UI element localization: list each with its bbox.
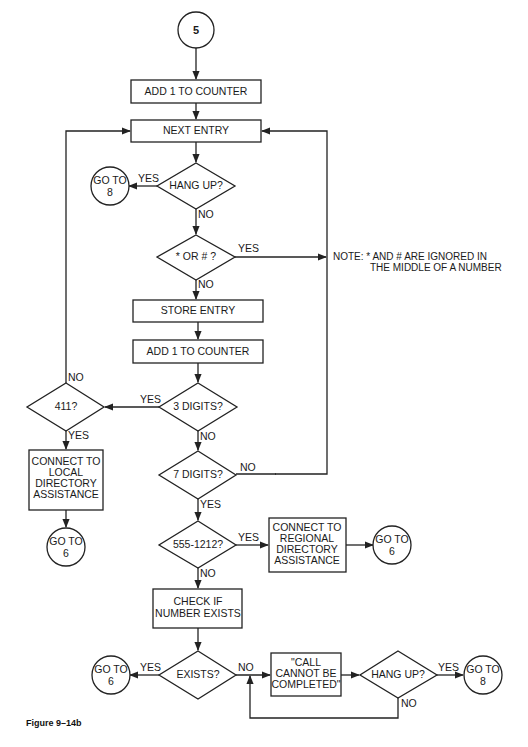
goto-8-connector-a: GO TO 8 — [91, 167, 129, 205]
svg-text:* OR # ?: * OR # ? — [176, 250, 216, 262]
svg-text:ADD 1 TO COUNTER: ADD 1 TO COUNTER — [145, 85, 248, 97]
yes-label: YES — [68, 429, 89, 441]
svg-text:NUMBER EXISTS: NUMBER EXISTS — [155, 607, 241, 619]
process-next-entry: NEXT ENTRY — [131, 120, 261, 142]
yes-label: YES — [140, 393, 161, 405]
svg-text:THE MIDDLE OF A NUMBER: THE MIDDLE OF A NUMBER — [370, 262, 502, 273]
yes-label: YES — [138, 172, 159, 184]
svg-text:411?: 411? — [55, 400, 78, 412]
svg-text:EXISTS?: EXISTS? — [176, 668, 219, 680]
svg-text:5: 5 — [193, 24, 199, 36]
svg-text:ASSISTANCE: ASSISTANCE — [274, 554, 340, 566]
decision-3-digits: 3 DIGITS? — [159, 383, 237, 431]
no-label: NO — [401, 697, 417, 709]
decision-7-digits: 7 DIGITS? — [159, 451, 236, 499]
svg-text:CHECK IF: CHECK IF — [173, 595, 222, 607]
figure-caption: Figure 9–14b — [26, 718, 82, 728]
yes-label: YES — [238, 242, 259, 254]
svg-text:6: 6 — [389, 545, 395, 557]
svg-text:STORE ENTRY: STORE ENTRY — [161, 304, 235, 316]
no-label: NO — [198, 208, 214, 220]
no-label: NO — [198, 278, 214, 290]
svg-text:GO TO: GO TO — [49, 535, 82, 547]
yes-label: YES — [438, 661, 459, 673]
decision-411: 411? — [27, 383, 104, 431]
decision-hang-up-2: HANG UP? — [360, 651, 437, 698]
svg-text:GO TO: GO TO — [375, 533, 408, 545]
svg-text:ASSISTANCE: ASSISTANCE — [33, 488, 99, 500]
svg-text:NEXT ENTRY: NEXT ENTRY — [163, 124, 229, 136]
decision-hang-up-1: HANG UP? — [157, 163, 235, 209]
goto-8-connector-b: GO TO 8 — [464, 656, 502, 694]
svg-text:GO TO: GO TO — [93, 174, 126, 186]
no-label: NO — [68, 371, 84, 383]
svg-text:3 DIGITS?: 3 DIGITS? — [173, 400, 223, 412]
no-label: NO — [200, 567, 216, 579]
decision-star-or-hash: * OR # ? — [157, 235, 235, 280]
yes-label: YES — [140, 661, 161, 673]
start-connector-5: 5 — [178, 12, 214, 48]
decision-exists: EXISTS? — [159, 651, 236, 699]
svg-text:ADD 1 TO COUNTER: ADD 1 TO COUNTER — [147, 345, 250, 357]
decision-555-1212: 555-1212? — [159, 521, 236, 568]
svg-text:HANG UP?: HANG UP? — [169, 179, 223, 191]
process-check-exists: CHECK IF NUMBER EXISTS — [153, 589, 242, 628]
feedback-line-left — [66, 131, 130, 383]
svg-text:GO TO: GO TO — [466, 663, 499, 675]
goto-6-connector-a: GO TO 6 — [47, 528, 85, 566]
svg-text:6: 6 — [63, 547, 69, 559]
process-add-counter-2: ADD 1 TO COUNTER — [133, 340, 263, 363]
svg-text:555-1212?: 555-1212? — [173, 538, 223, 550]
svg-text:7 DIGITS?: 7 DIGITS? — [173, 468, 223, 480]
flowchart: 5 ADD 1 TO COUNTER NEXT ENTRY HANG UP? Y… — [0, 0, 528, 747]
feedback-line-right — [262, 131, 327, 474]
no-label: NO — [240, 461, 256, 473]
process-add-counter-1: ADD 1 TO COUNTER — [131, 80, 261, 103]
goto-6-connector-c: GO TO 6 — [92, 656, 130, 694]
svg-text:8: 8 — [480, 675, 486, 687]
process-connect-local: CONNECT TO LOCAL DIRECTORY ASSISTANCE — [29, 450, 103, 510]
svg-text:6: 6 — [108, 675, 114, 687]
process-store-entry: STORE ENTRY — [133, 300, 263, 322]
svg-text:NOTE: * AND # ARE IGNORED: NOTE: * AND # ARE IGNORED IN — [333, 251, 487, 262]
svg-text:8: 8 — [107, 186, 113, 198]
goto-6-connector-b: GO TO 6 — [373, 526, 411, 564]
svg-text:GO TO: GO TO — [94, 663, 127, 675]
yes-label: YES — [238, 531, 259, 543]
process-call-cannot-be-completed: "CALL CANNOT BE COMPLETED" — [271, 653, 341, 696]
note-text: NOTE: * AND # ARE IGNORED IN THE MIDDLE … — [333, 251, 502, 273]
yes-label: YES — [200, 498, 221, 510]
svg-text:COMPLETED": COMPLETED" — [271, 678, 340, 690]
no-label: NO — [200, 430, 216, 442]
process-connect-regional: CONNECT TO REGIONAL DIRECTORY ASSISTANCE — [269, 518, 346, 572]
svg-text:HANG UP?: HANG UP? — [371, 668, 425, 680]
no-label: NO — [238, 661, 254, 673]
